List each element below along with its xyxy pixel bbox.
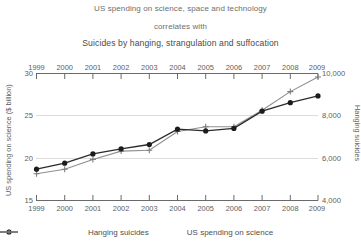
ytick-right-10000: 10,000 (322, 69, 345, 78)
xtick-bottom-9: 2008 (282, 204, 298, 213)
right-axis: 10,000 8,000 6,000 4,000 (313, 69, 345, 205)
xtick-top-7: 2006 (226, 63, 242, 72)
legend-item-hanging-suicides: Hanging suicides (88, 228, 149, 237)
left-axis-title: US spending on science ($ billion) (4, 84, 13, 196)
legend-marker-plus-icon (0, 228, 18, 236)
ytick-left-25: 25 (25, 111, 33, 120)
xtick-top-9: 2008 (282, 63, 298, 72)
top-axis (36, 74, 318, 80)
xtick-bottom-8: 2007 (254, 204, 270, 213)
xtick-top-6: 2005 (197, 63, 213, 72)
top-xtick-labels: 1999 2000 2001 2002 2003 2004 2005 2006 … (28, 63, 325, 72)
xtick-bottom-7: 2006 (226, 204, 242, 213)
right-axis-title: Hanging suicides (353, 105, 361, 162)
left-axis: 30 25 20 15 (25, 69, 41, 205)
ytick-left-20: 20 (25, 154, 33, 163)
plot-area: 1999 2000 2001 2002 2003 2004 2005 2006 … (0, 0, 361, 250)
legend-label-us-spending: US spending on science (187, 228, 273, 237)
xtick-bottom-6: 2005 (197, 204, 213, 213)
series-us-spending-markers (34, 74, 322, 177)
xtick-bottom-10: 2009 (309, 204, 325, 213)
xtick-top-2: 2001 (85, 63, 101, 72)
xtick-bottom-3: 2002 (113, 204, 129, 213)
xtick-top-8: 2007 (254, 63, 270, 72)
ytick-left-15: 15 (25, 196, 33, 205)
xtick-bottom-5: 2004 (169, 204, 185, 213)
xtick-bottom-2: 2001 (85, 204, 101, 213)
ytick-left-30: 30 (25, 69, 33, 78)
ytick-right-6000: 6,000 (322, 154, 341, 163)
xtick-bottom-4: 2003 (141, 204, 157, 213)
chart-legend: Hanging suicides US spending on science (0, 228, 361, 237)
xtick-top-3: 2002 (113, 63, 129, 72)
xtick-top-5: 2004 (169, 63, 185, 72)
legend-label-hanging-suicides: Hanging suicides (88, 228, 149, 237)
legend-item-us-spending: US spending on science (187, 228, 273, 237)
bottom-axis (36, 195, 318, 201)
ytick-right-8000: 8,000 (322, 111, 341, 120)
bottom-xtick-labels: 1999 2000 2001 2002 2003 2004 2005 2006 … (28, 204, 325, 213)
xtick-bottom-0: 1999 (28, 204, 44, 213)
xtick-bottom-1: 2000 (56, 204, 72, 213)
spurious-correlation-chart: US spending on science, space and techno… (0, 0, 361, 250)
xtick-top-4: 2003 (141, 63, 157, 72)
ytick-right-4000: 4,000 (322, 196, 341, 205)
xtick-top-1: 2000 (56, 63, 72, 72)
